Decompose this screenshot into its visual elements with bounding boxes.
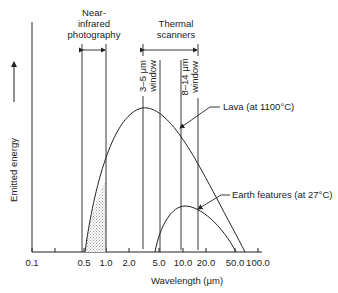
- x-tick-label: 0.5: [77, 257, 90, 268]
- near-ir-hatched-area: [85, 180, 106, 252]
- y-axis-label: Emitted energy: [8, 62, 19, 202]
- x-tick-label: 50.0: [226, 257, 245, 268]
- svg-text:Emitted energy: Emitted energy: [8, 138, 19, 202]
- x-tick-label: 100.0: [246, 257, 270, 268]
- svg-text:Thermal: Thermal: [159, 18, 194, 29]
- x-tick-label: 5.0: [152, 257, 165, 268]
- window-8-14-label: 8–14 μm window: [179, 56, 204, 98]
- svg-text:photography: photography: [68, 29, 121, 40]
- earth-label: Earth features (at 27°C): [232, 189, 332, 200]
- svg-text:window: window: [147, 60, 158, 93]
- x-ticks: 0.10.51.02.05.010.020.050.0100.0: [25, 248, 270, 268]
- x-tick-label: 0.1: [25, 257, 38, 268]
- x-tick-label: 2.0: [122, 257, 135, 268]
- thermal-scanners-label: Thermal scanners: [157, 18, 196, 40]
- svg-text:window: window: [189, 61, 200, 94]
- window-3-5-label: 3–5 μm window: [137, 56, 158, 96]
- x-tick-label: 1.0: [99, 257, 112, 268]
- near-ir-label: Near- infrared photography: [68, 7, 121, 40]
- lava-label: Lava (at 1100°C): [223, 101, 294, 112]
- svg-text:Near-: Near-: [82, 7, 106, 18]
- emission-spectrum-diagram: Emitted energy 0.10.51.02.05.010.020.050…: [0, 0, 338, 293]
- x-tick-label: 20.0: [197, 257, 216, 268]
- earth-leader: [198, 195, 230, 209]
- svg-text:scanners: scanners: [157, 29, 196, 40]
- x-tick-label: 10.0: [174, 257, 193, 268]
- x-axis-label: Wavelength (μm): [151, 275, 223, 286]
- svg-text:infrared: infrared: [78, 18, 110, 29]
- lava-leader: [180, 107, 220, 128]
- lava-curve: [85, 108, 245, 252]
